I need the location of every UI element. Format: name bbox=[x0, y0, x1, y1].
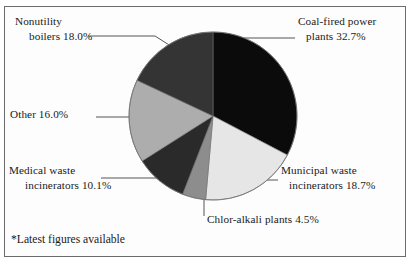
pie-chart-figure: Nonutility boilers 18.0% Other 16.0% Med… bbox=[0, 0, 412, 264]
pie-label-other: Other 16.0% bbox=[10, 107, 68, 122]
pie-label-medical-waste-line2: incinerators 10.1% bbox=[25, 178, 111, 193]
pie-label-nonutility-boilers-line2: boilers 18.0% bbox=[29, 29, 92, 44]
pie-label-medical-waste-incinerators: Medical waste incinerators 10.1% bbox=[9, 163, 111, 192]
pie-label-chlor-alkali-line1: Chlor-alkali plants 4.5% bbox=[207, 213, 319, 225]
pie-label-nonutility-boilers-line1: Nonutility bbox=[15, 15, 62, 27]
pie-label-municipal-waste-incinerators: Municipal waste incinerators 18.7% bbox=[281, 163, 375, 192]
pie-label-other-line1: Other 16.0% bbox=[10, 108, 68, 120]
pie-label-coal-fired-power-plants: Coal-fired power plants 32.7% bbox=[298, 14, 376, 43]
pie-label-coal-fired-line2: plants 32.7% bbox=[306, 29, 376, 44]
footnote: *Latest figures available bbox=[11, 233, 125, 246]
pie-label-municipal-waste-line1: Municipal waste bbox=[281, 164, 357, 176]
pie-label-nonutility-boilers: Nonutility boilers 18.0% bbox=[15, 14, 92, 43]
pie-label-coal-fired-line1: Coal-fired power bbox=[298, 15, 376, 27]
pie-slices bbox=[129, 32, 297, 200]
pie-label-medical-waste-line1: Medical waste bbox=[9, 164, 75, 176]
pie-label-chlor-alkali-plants: Chlor-alkali plants 4.5% bbox=[207, 212, 319, 227]
pie-label-municipal-waste-line2: incinerators 18.7% bbox=[289, 178, 375, 193]
